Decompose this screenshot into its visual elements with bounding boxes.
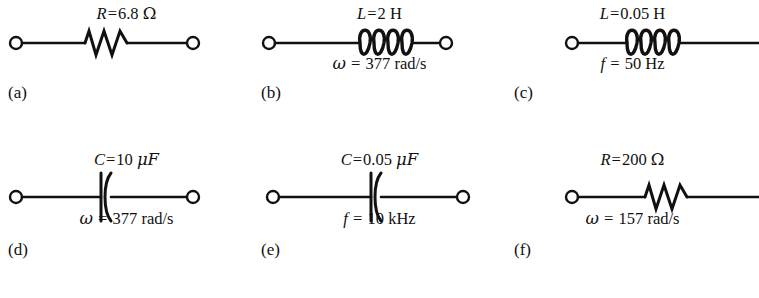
- frequency-symbol-d: ω: [80, 209, 93, 228]
- left-terminal-node-c: [566, 37, 578, 49]
- frequency-number-d: 377: [113, 209, 138, 228]
- frequency-unit-c: Hz: [645, 54, 664, 73]
- circuit-cell-b: L=2 H ω = 377 rad/s: [253, 0, 506, 149]
- resistor-schematic-svg-a: [0, 0, 253, 110]
- frequency-symbol-c: f: [600, 54, 605, 73]
- right-terminal-node-e: [457, 191, 469, 203]
- frequency-label-f: ω = 157 rad/s: [506, 211, 759, 228]
- right-terminal-node-b: [440, 37, 452, 49]
- frequency-number-b: 377: [366, 54, 391, 73]
- circuit-cell-d: C=10 μF ω = 377 rad/s (d): [0, 149, 253, 298]
- frequency-number-e: 10: [368, 209, 385, 228]
- frequency-unit-d: rad/s: [141, 209, 173, 228]
- circuit-cell-a: R=6.8 Ω (a): [0, 0, 253, 149]
- frequency-label-e: f = 10 kHz: [253, 211, 506, 228]
- circuit-cell-e: C=0.05 μF f = 10 kHz (e): [253, 149, 506, 298]
- capacitor-schematic-svg-d: [0, 149, 253, 259]
- left-terminal-node-f: [566, 191, 578, 203]
- circuit-cell-f: R=200 Ω ω = 157 rad/s (f): [506, 149, 759, 298]
- resistor-zigzag-f: [645, 185, 687, 209]
- inductor-coils-b: [360, 30, 413, 54]
- frequency-equals-e: =: [352, 209, 363, 228]
- inductor-coils-c: [627, 30, 680, 54]
- caption-d: (d): [8, 241, 28, 258]
- frequency-label-c: f = 50 Hz: [506, 56, 759, 73]
- frequency-unit-e: kHz: [388, 209, 416, 228]
- right-terminal-node-a: [187, 37, 199, 49]
- capacitor-schematic-svg-e: [253, 149, 506, 259]
- schematic-f: [506, 149, 759, 259]
- frequency-number-c: 50: [625, 54, 642, 73]
- left-terminal-node-b: [263, 37, 275, 49]
- frequency-equals-b: =: [350, 54, 361, 73]
- left-terminal-node-d: [10, 191, 22, 203]
- frequency-unit-f: rad/s: [647, 209, 679, 228]
- resistor-schematic-svg-f: [506, 149, 759, 259]
- caption-f: (f): [514, 241, 531, 258]
- caption-c: (c): [514, 84, 533, 101]
- frequency-symbol-e: f: [343, 209, 348, 228]
- schematic-a: [0, 0, 253, 110]
- frequency-equals-d: =: [97, 209, 108, 228]
- left-terminal-node-a: [10, 37, 22, 49]
- schematic-d: [0, 149, 253, 259]
- circuit-cell-c: L=0.05 H f = 50 Hz (c): [506, 0, 759, 149]
- frequency-symbol-b: ω: [333, 54, 346, 73]
- frequency-number-f: 157: [619, 209, 644, 228]
- resistor-zigzag-a: [85, 31, 127, 55]
- circuit-figure: R=6.8 Ω (a) L=2 H: [0, 0, 759, 298]
- right-terminal-node-d: [187, 191, 199, 203]
- frequency-equals-c: =: [609, 54, 620, 73]
- frequency-label-d: ω = 377 rad/s: [0, 211, 253, 228]
- schematic-e: [253, 149, 506, 259]
- frequency-symbol-f: ω: [586, 209, 599, 228]
- frequency-label-b: ω = 377 rad/s: [253, 56, 506, 73]
- frequency-unit-b: rad/s: [394, 54, 426, 73]
- frequency-equals-f: =: [603, 209, 614, 228]
- left-terminal-node-e: [267, 191, 279, 203]
- caption-b: (b): [261, 84, 281, 101]
- caption-a: (a): [8, 84, 27, 101]
- caption-e: (e): [261, 241, 280, 258]
